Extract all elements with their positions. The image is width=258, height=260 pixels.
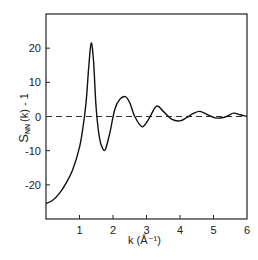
x-tick-label: 5 [210,224,216,236]
x-axis-ticks: 123456 [76,215,250,236]
y-tick-label: -10 [25,145,41,157]
y-tick-label: 20 [29,42,41,54]
y-tick-label: -20 [25,179,41,191]
svg-text:SNN(k) - 1: SNN(k) - 1 [16,93,31,143]
x-tick-label: 6 [244,224,250,236]
x-tick-label: 4 [177,224,183,236]
x-tick-label: 2 [110,224,116,236]
y-tick-label: 10 [29,76,41,88]
x-axis-title: k (Å⁻¹) [128,234,161,246]
chart-figure: 20100-10-20 123456 k (Å⁻¹) SNN(k) - 1 [0,0,258,260]
data-series-curve [46,43,247,204]
x-tick-label: 1 [76,224,82,236]
y-tick-label: 0 [35,111,41,123]
y-axis-title: SNN(k) - 1 [16,93,31,143]
